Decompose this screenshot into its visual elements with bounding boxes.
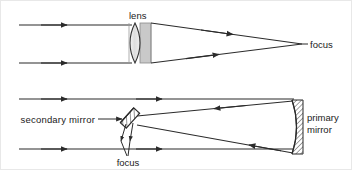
telescope-ray-diagram-figure: lens focus xyxy=(0,0,352,170)
focus-label-top: focus xyxy=(310,39,333,50)
lens-label: lens xyxy=(129,10,147,21)
converging-ray-upper-arrow xyxy=(201,30,233,35)
lens-glass xyxy=(130,23,140,63)
secondary-mirror xyxy=(120,108,139,128)
converging-ray-group xyxy=(151,23,302,63)
refractor-diagram: lens focus xyxy=(19,10,333,63)
primary-mirror-label-line2: mirror xyxy=(307,124,332,135)
converging-ray-lower-arrow xyxy=(186,54,219,58)
incoming-ray-group-top xyxy=(19,25,132,63)
lens-mount xyxy=(140,23,151,63)
diagram-canvas: lens focus xyxy=(1,1,352,170)
primary-mirror-label-line1: primary xyxy=(307,112,339,123)
focus-label-bottom: focus xyxy=(117,157,140,168)
primary-mirror xyxy=(292,100,303,154)
reflector-diagram: secondary mirror primary mirror focus xyxy=(19,99,339,168)
reflected-ray-lower-arrow xyxy=(249,145,281,151)
focus-ray-left xyxy=(121,124,126,141)
focus-ray-right xyxy=(130,123,133,141)
secondary-mirror-label: secondary mirror xyxy=(21,114,95,125)
reflected-ray-upper-arrow xyxy=(214,106,246,109)
converging-ray-lower xyxy=(151,44,302,63)
secondary-mirror-body xyxy=(120,108,139,128)
reflected-ray-group xyxy=(137,101,293,153)
